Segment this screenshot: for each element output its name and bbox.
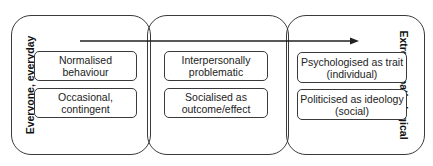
concept-box-normalised-behaviour: Normalised behaviour <box>34 51 137 81</box>
box-line: behaviour <box>59 66 112 78</box>
concept-box-politicised-ideology: Politicised as ideology (social) <box>297 89 407 120</box>
box-line: outcome/effect <box>182 103 251 115</box>
continuum-arrow-icon <box>78 36 362 46</box>
box-line: Occasional, <box>58 91 113 103</box>
concept-box-occasional-contingent: Occasional, contingent <box>34 88 137 118</box>
box-line: problematic <box>182 66 251 78</box>
concept-box-interpersonally-problematic: Interpersonally problematic <box>164 51 268 81</box>
axis-label-everyday: Everyone, everyday <box>24 30 36 140</box>
box-line: Psychologised as trait <box>301 56 403 68</box>
box-line: Politicised as ideology <box>300 93 403 105</box>
concept-box-psychologised-trait: Psychologised as trait (individual) <box>297 52 407 83</box>
box-line: (social) <box>300 105 403 117</box>
box-line: contingent <box>58 103 113 115</box>
box-line: (individual) <box>301 68 403 80</box>
box-line: Socialised as <box>182 91 251 103</box>
box-line: Interpersonally <box>182 54 251 66</box>
axis-label-pathological: Extreme, pathological <box>398 25 410 145</box>
box-line: Normalised <box>59 54 112 66</box>
concept-box-socialised-outcome: Socialised as outcome/effect <box>164 88 268 118</box>
